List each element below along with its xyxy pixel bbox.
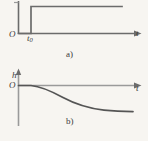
chart-panel-b: h O t b) (0, 66, 148, 141)
plot-b-caption: b) (66, 117, 74, 126)
plot-b-origin-label: O (9, 81, 16, 90)
plot-a-svg (0, 0, 148, 66)
plot-b-svg (0, 66, 148, 141)
plot-a-step-curve (19, 7, 123, 34)
plot-a-t0-subscript: 0 (30, 36, 33, 43)
plot-a-caption: a) (66, 50, 73, 59)
figure-container: O t0 t a) h O t b) (0, 0, 148, 141)
plot-a-x-axis-label: t (136, 29, 139, 38)
plot-b-decay-curve (19, 86, 134, 112)
plot-a-t0-tick-label: t0 (27, 34, 33, 44)
chart-panel-a: O t0 t a) (0, 0, 148, 66)
plot-b-y-axis-label: h (12, 71, 17, 80)
plot-b-x-axis-label: t (136, 84, 139, 93)
plot-a-origin-label: O (9, 30, 16, 39)
